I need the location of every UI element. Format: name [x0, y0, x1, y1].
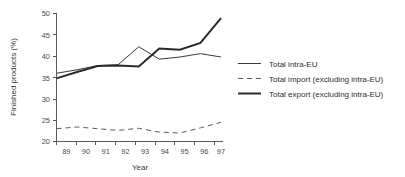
y-tick-label: 50 [42, 9, 50, 18]
y-tick-label: 45 [42, 31, 50, 40]
line-chart-canvas: 50 45 40 35 30 25 20 Finished products (… [0, 0, 405, 177]
x-tick-label: 97 [217, 147, 225, 156]
x-tick-label: 92 [121, 147, 129, 156]
series-line-total-intra-eu [57, 47, 222, 73]
legend: Total intra-EU Total import (excluding i… [238, 60, 384, 99]
x-axis-tick-labels: 89 90 91 92 93 94 95 96 97 [62, 147, 225, 156]
x-axis-ticks [57, 142, 215, 146]
x-tick-label: 90 [82, 147, 90, 156]
x-tick-label: 89 [62, 147, 70, 156]
x-tick-label: 95 [180, 147, 188, 156]
legend-label: Total export (excluding intra-EU) [269, 90, 384, 99]
x-axis: 89 90 91 92 93 94 95 96 97 Year [57, 142, 226, 173]
y-axis-ticks [53, 14, 57, 142]
x-axis-title: Year [132, 163, 149, 172]
y-tick-label: 20 [42, 137, 50, 146]
legend-item-total-export: Total export (excluding intra-EU) [238, 90, 384, 99]
data-series-group [57, 18, 222, 133]
y-axis-title: Finished products (%) [9, 38, 18, 116]
x-tick-label: 91 [102, 147, 110, 156]
x-tick-label: 96 [200, 147, 208, 156]
series-line-total-import-excluding-intra-eu [57, 122, 222, 133]
chart-figure: 50 45 40 35 30 25 20 Finished products (… [0, 0, 405, 177]
legend-item-total-import: Total import (excluding intra-EU) [238, 75, 384, 84]
legend-item-total-intra-eu: Total intra-EU [238, 60, 318, 69]
y-tick-label: 25 [42, 116, 50, 125]
x-tick-label: 94 [161, 147, 169, 156]
legend-label: Total import (excluding intra-EU) [269, 75, 384, 84]
y-tick-label: 30 [42, 95, 50, 104]
y-axis: 50 45 40 35 30 25 20 Finished products (… [9, 9, 57, 146]
y-tick-label: 35 [42, 74, 50, 83]
y-tick-label: 40 [42, 52, 50, 61]
legend-label: Total intra-EU [269, 60, 318, 69]
x-tick-label: 93 [141, 147, 149, 156]
y-axis-tick-labels: 50 45 40 35 30 25 20 [42, 9, 50, 146]
